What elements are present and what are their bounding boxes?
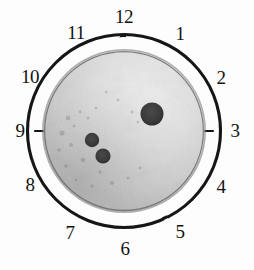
hour-label-6: 6 bbox=[121, 239, 130, 258]
dial-diagram bbox=[0, 0, 254, 270]
spot-large bbox=[141, 103, 164, 126]
specimen-disc bbox=[42, 49, 206, 213]
hour-label-3: 3 bbox=[231, 121, 240, 140]
hour-label-12: 12 bbox=[115, 7, 133, 26]
hour-label-2: 2 bbox=[217, 68, 226, 87]
hour-label-8: 8 bbox=[26, 175, 35, 194]
hour-label-4: 4 bbox=[217, 177, 226, 196]
hour-label-1: 1 bbox=[176, 24, 185, 43]
hour-label-7: 7 bbox=[66, 223, 75, 242]
spot-small-upper bbox=[85, 133, 99, 147]
hour-label-11: 11 bbox=[67, 23, 84, 42]
hour-label-10: 10 bbox=[21, 67, 39, 86]
hour-label-5: 5 bbox=[176, 222, 185, 241]
spot-small-lower bbox=[95, 148, 110, 163]
clock-dial-figure: 12 1 2 3 4 5 6 7 8 9 10 11 bbox=[0, 0, 254, 270]
hour-label-9: 9 bbox=[16, 121, 25, 140]
